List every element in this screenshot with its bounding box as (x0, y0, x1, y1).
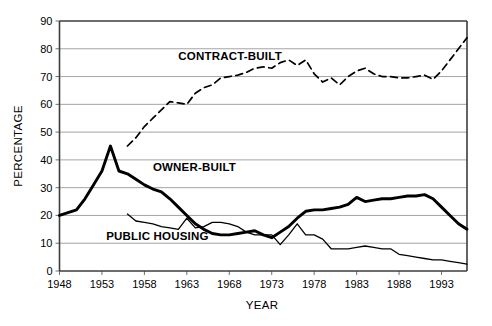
x-tick-label: 1993 (429, 278, 453, 290)
y-tick-label: 80 (40, 43, 52, 55)
y-tick-label: 60 (40, 98, 52, 110)
y-tick-label: 0 (46, 265, 52, 277)
x-tick-label: 1988 (387, 278, 411, 290)
x-tick-label: 1983 (344, 278, 368, 290)
series-label-contract-built: CONTRACT-BUILT (178, 50, 282, 62)
x-tick-label: 1978 (302, 278, 326, 290)
y-tick-label: 50 (40, 126, 52, 138)
x-tick-label: 1948 (47, 278, 71, 290)
x-tick-label: 1968 (217, 278, 241, 290)
y-tick-label: 70 (40, 71, 52, 83)
x-axis-tick-labels: 1948195319581963196819731978198319881993 (47, 278, 454, 290)
y-tick-label: 10 (40, 237, 52, 249)
y-tick-label: 40 (40, 154, 52, 166)
y-tick-label: 20 (40, 209, 52, 221)
y-axis-title: PERCENTAGE (12, 105, 24, 186)
chart-container: 0102030405060708090 19481953195819631968… (0, 0, 492, 326)
series-label-public-housing: PUBLIC HOUSING (106, 230, 208, 242)
x-tick-label: 1963 (175, 278, 199, 290)
line-chart: 0102030405060708090 19481953195819631968… (0, 0, 492, 326)
x-tick-label: 1953 (90, 278, 114, 290)
x-axis-title: YEAR (246, 299, 279, 311)
y-tick-label: 30 (40, 182, 52, 194)
x-tick-label: 1958 (132, 278, 156, 290)
series-annotations: CONTRACT-BUILTOWNER-BUILTPUBLIC HOUSING (106, 50, 282, 243)
x-tick-label: 1973 (259, 278, 283, 290)
series-label-owner-built: OWNER-BUILT (153, 161, 236, 173)
y-axis-tick-labels: 0102030405060708090 (40, 15, 52, 277)
y-tick-label: 90 (40, 15, 52, 27)
